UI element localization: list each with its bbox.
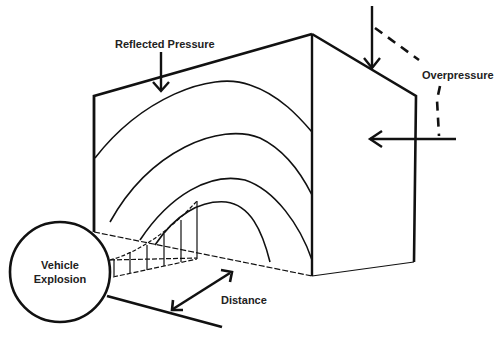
vehicle-explosion-label-2: Explosion — [34, 273, 87, 285]
blast-diagram: Vehicle Explosion Distance Reflected Pre… — [0, 0, 499, 337]
overpressure-leader-lines — [375, 28, 440, 136]
building-left-wall — [94, 34, 312, 276]
vehicle-explosion-circle: Vehicle Explosion — [10, 222, 110, 322]
pressure-wave-arcs — [95, 81, 312, 262]
distance-label: Distance — [221, 294, 267, 306]
ground-lines — [94, 232, 312, 277]
reflected-pressure-arrow — [153, 52, 169, 91]
pressure-profile — [110, 201, 197, 276]
overpressure-label: Overpressure — [422, 69, 494, 81]
vehicle-explosion-label-1: Vehicle — [41, 259, 79, 271]
ground-edge-line — [107, 296, 222, 327]
side-pressure-arrow — [370, 131, 456, 147]
building-right-wall — [312, 34, 416, 276]
reflected-pressure-label: Reflected Pressure — [115, 38, 215, 50]
top-pressure-arrow — [364, 6, 380, 68]
